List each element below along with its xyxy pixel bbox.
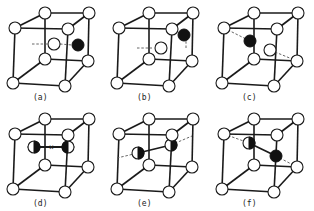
cube-panel-e: (e) <box>111 113 199 208</box>
panel-label-c: (c) <box>242 93 256 102</box>
corner-atom-icon <box>143 113 155 125</box>
corner-atom-icon <box>186 161 198 173</box>
corner-atom-icon <box>218 22 230 34</box>
corner-atom-icon <box>7 183 19 195</box>
corner-atom-icon <box>9 128 21 140</box>
corner-atom-icon <box>83 113 95 125</box>
defect-diagram: (a)(b)(c)×(d)(e)(f) <box>0 0 314 211</box>
interstitial-atom-icon <box>155 42 167 54</box>
corner-atom-icon <box>166 23 178 35</box>
cube-panel-c: (c) <box>216 7 304 102</box>
corner-atom-icon <box>62 129 74 141</box>
corner-atom-icon <box>143 53 155 65</box>
cube-panel-a: (a) <box>7 7 95 102</box>
corner-atom-icon <box>62 23 74 35</box>
panel-label-a: (a) <box>33 93 47 102</box>
corner-atom-icon <box>163 186 175 198</box>
corner-atom-icon <box>186 55 198 67</box>
corner-atom-icon <box>248 7 260 19</box>
corner-atom-icon <box>292 113 304 125</box>
corner-atom-icon <box>39 113 51 125</box>
corner-atom-icon <box>59 80 71 92</box>
corner-atom-icon <box>39 7 51 19</box>
corner-atom-icon <box>163 80 175 92</box>
corner-atom-icon <box>83 7 95 19</box>
corner-atom-icon <box>248 113 260 125</box>
corner-atom-icon <box>218 128 230 140</box>
corner-atom-icon <box>7 77 19 89</box>
corner-atom-icon <box>271 129 283 141</box>
corner-atom-icon <box>113 22 125 34</box>
corner-atom-icon <box>292 7 304 19</box>
corner-atom-icon <box>166 129 178 141</box>
interstitial-atom-icon <box>264 44 276 56</box>
defect-atom-icon <box>270 150 282 162</box>
corner-atom-icon <box>216 183 228 195</box>
defect-atom-icon <box>72 39 84 51</box>
corner-atom-icon <box>39 159 51 171</box>
corner-atom-icon <box>82 55 94 67</box>
corner-atom-icon <box>82 161 94 173</box>
corner-atom-icon <box>9 22 21 34</box>
corner-atom-icon <box>268 186 280 198</box>
defect-atom-icon <box>178 29 190 41</box>
cube-panel-d: ×(d) <box>7 113 95 208</box>
panel-label-b: (b) <box>137 93 151 102</box>
defect-atom-icon <box>244 35 256 47</box>
corner-atom-icon <box>59 186 71 198</box>
panel-label-e: (e) <box>137 199 151 208</box>
corner-atom-icon <box>216 77 228 89</box>
corner-atom-icon <box>143 159 155 171</box>
corner-atom-icon <box>291 55 303 67</box>
corner-atom-icon <box>291 161 303 173</box>
corner-atom-icon <box>268 80 280 92</box>
corner-atom-icon <box>187 113 199 125</box>
corner-atom-icon <box>113 128 125 140</box>
corner-atom-icon <box>111 77 123 89</box>
panel-label-d: (d) <box>33 199 47 208</box>
cube-panel-f: (f) <box>216 113 304 208</box>
corner-atom-icon <box>39 53 51 65</box>
corner-atom-icon <box>248 159 260 171</box>
interstitial-atom-icon <box>48 38 60 50</box>
cube-panel-b: (b) <box>111 7 199 102</box>
corner-atom-icon <box>187 7 199 19</box>
corner-atom-icon <box>271 23 283 35</box>
corner-atom-icon <box>248 53 260 65</box>
panel-label-f: (f) <box>242 199 256 208</box>
corner-atom-icon <box>111 183 123 195</box>
cross-mark: × <box>49 143 54 152</box>
corner-atom-icon <box>143 7 155 19</box>
